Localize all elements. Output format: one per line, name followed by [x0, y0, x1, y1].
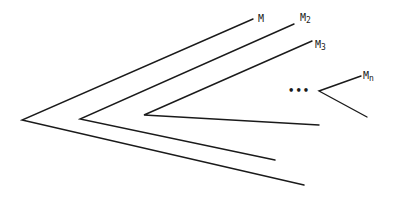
label-m2: M2 [300, 13, 311, 23]
label-m-text: M [258, 13, 264, 24]
chevron-m3 [144, 41, 319, 125]
chevron-diagram [0, 0, 393, 200]
label-mn-sub: n [369, 74, 374, 83]
chevron-m2 [80, 24, 294, 160]
label-m: M [258, 14, 264, 24]
label-m2-sub: 2 [306, 16, 311, 25]
label-m3-sub: 3 [321, 43, 326, 52]
label-m3: M3 [315, 40, 326, 50]
chevron-mn [319, 76, 367, 117]
ellipsis: ••• [288, 86, 310, 96]
label-mn: Mn [363, 71, 374, 81]
chevron-m [22, 19, 304, 185]
